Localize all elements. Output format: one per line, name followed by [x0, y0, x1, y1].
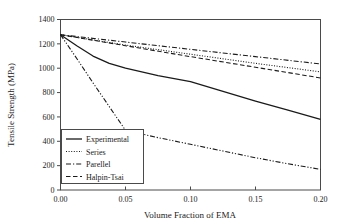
legend-label-experimental: Experimental	[86, 135, 130, 144]
y-tick-label: 400	[43, 137, 55, 146]
y-tick-label: 1400	[39, 15, 55, 24]
chart-legend: ExperimentalSeriesParellelHalpin-Tsai	[62, 130, 144, 184]
y-tick-label: 0	[51, 186, 55, 195]
y-axis-title: Tensile Strength (MPa)	[6, 63, 16, 147]
y-axis-tick-group: 0200400600800100012001400	[39, 15, 61, 195]
x-tick-label: 0.20	[314, 195, 328, 204]
y-tick-label: 600	[43, 113, 55, 122]
y-tick-label: 1000	[39, 64, 55, 73]
y-tick-label: 1200	[39, 40, 55, 49]
data-curve-series	[61, 35, 321, 72]
data-curve-experimental	[61, 35, 321, 120]
legend-label-series: Series	[86, 148, 106, 157]
x-tick-label: 0.00	[54, 195, 68, 204]
chart-figure: 0200400600800100012001400 0.000.050.100.…	[0, 0, 348, 224]
x-axis-tick-group: 0.000.050.100.150.20	[54, 187, 328, 205]
x-tick-label: 0.10	[184, 195, 198, 204]
tensile-strength-line-chart: 0200400600800100012001400 0.000.050.100.…	[0, 0, 348, 224]
x-axis-title: Volume Fraction of EMA	[144, 210, 237, 220]
x-tick-label: 0.05	[119, 195, 133, 204]
y-tick-label: 200	[43, 161, 55, 170]
x-tick-label: 0.15	[249, 195, 263, 204]
legend-label-parellel: Parellel	[86, 160, 111, 169]
legend-label-halpin-tsai: Halpin-Tsai	[86, 173, 124, 182]
y-tick-label: 800	[43, 88, 55, 97]
